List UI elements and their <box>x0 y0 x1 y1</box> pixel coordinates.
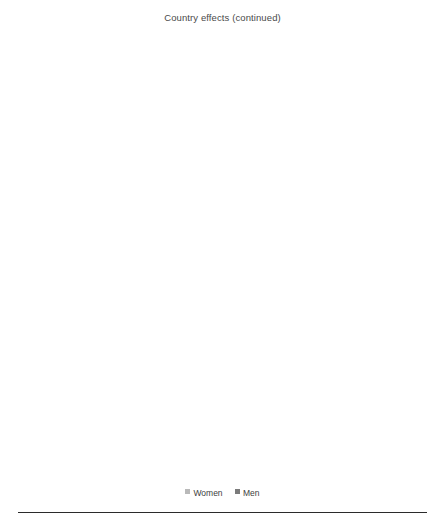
chart-legend: Women Men <box>0 487 445 498</box>
caption-divider <box>18 512 427 513</box>
legend-label-men: Men <box>243 488 260 498</box>
chart-title: Country effects (continued) <box>0 12 445 23</box>
figure: Country effects (continued) Women Men <box>0 0 445 526</box>
legend-label-women: Women <box>193 488 222 498</box>
legend-swatch-women-icon <box>185 489 190 494</box>
legend-item-women: Women <box>185 487 222 498</box>
legend-swatch-men-icon <box>235 489 240 494</box>
legend-item-men: Men <box>235 487 260 498</box>
